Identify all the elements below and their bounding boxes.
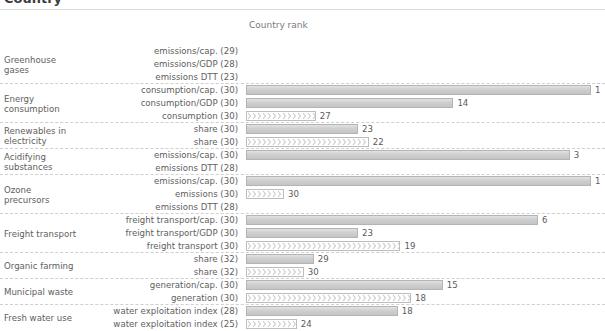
bar-track: 18 bbox=[246, 293, 605, 303]
bar-track: 14 bbox=[246, 98, 605, 108]
rank-value: 22 bbox=[373, 137, 384, 148]
group-label: Freight transport bbox=[4, 229, 76, 239]
bar-track bbox=[246, 46, 605, 56]
group-label-line: gases bbox=[4, 65, 56, 75]
bar-track: 27 bbox=[246, 111, 605, 121]
rank-bar bbox=[246, 241, 400, 251]
group-label-line: Fresh water use bbox=[4, 313, 72, 323]
group-label: Organic farming bbox=[4, 261, 74, 271]
chart-row: generation/cap. (30)15 bbox=[0, 279, 605, 292]
rank-bar bbox=[246, 267, 304, 277]
chart-row: share (32)29 bbox=[0, 253, 605, 266]
chart-row: share (30)23 bbox=[0, 123, 605, 136]
bar-track: 6 bbox=[246, 215, 605, 225]
rank-value: 14 bbox=[457, 98, 468, 109]
rank-bar bbox=[246, 319, 297, 329]
rank-value: 3 bbox=[574, 150, 579, 161]
rank-value: 1 bbox=[595, 176, 600, 187]
bar-track: 23 bbox=[246, 124, 605, 134]
group-separator bbox=[0, 122, 605, 123]
country-rank-chart: Country rank emissions/cap. (29)emission… bbox=[0, 0, 605, 331]
rank-bar bbox=[246, 306, 398, 316]
group-label: Greenhousegases bbox=[4, 55, 56, 75]
rank-bar bbox=[246, 98, 453, 108]
group-separator bbox=[0, 148, 605, 149]
group-label-line: precursors bbox=[4, 195, 50, 205]
group-label-line: Organic farming bbox=[4, 261, 74, 271]
bar-track: 3 bbox=[246, 150, 605, 160]
bar-track bbox=[246, 72, 605, 82]
group-separator bbox=[0, 83, 605, 84]
group-label: Municipal waste bbox=[4, 287, 73, 297]
rank-bar bbox=[246, 228, 358, 238]
chart-row: emissions/cap. (30)1 bbox=[0, 175, 605, 188]
rank-bar bbox=[246, 150, 570, 160]
bar-track: 29 bbox=[246, 254, 605, 264]
group-label: Fresh water use bbox=[4, 313, 72, 323]
bar-track: 23 bbox=[246, 228, 605, 238]
axis-title: Country rank bbox=[249, 20, 308, 30]
rank-bar bbox=[246, 254, 314, 264]
rank-value: 23 bbox=[362, 228, 373, 239]
chart-row: emissions/cap. (29) bbox=[0, 45, 605, 58]
chart-row: freight transport/cap. (30)6 bbox=[0, 214, 605, 227]
bar-track bbox=[246, 163, 605, 173]
rank-value: 18 bbox=[415, 293, 426, 304]
chart-row: freight transport/GDP (30)23 bbox=[0, 227, 605, 240]
bar-track: 24 bbox=[246, 319, 605, 329]
group-label-line: consumption bbox=[4, 104, 60, 114]
group-separator bbox=[0, 174, 605, 175]
rank-bar bbox=[246, 111, 316, 121]
group-label-line: Energy bbox=[4, 94, 60, 104]
chart-row: emissions/GDP (28) bbox=[0, 58, 605, 71]
bar-track: 1 bbox=[246, 85, 605, 95]
group-separator bbox=[0, 252, 605, 253]
rank-value: 24 bbox=[301, 319, 312, 330]
rank-value: 23 bbox=[362, 124, 373, 135]
chart-row: emissions/cap. (30)3 bbox=[0, 149, 605, 162]
rank-bar bbox=[246, 137, 369, 147]
bar-track: 30 bbox=[246, 189, 605, 199]
group-label: Acidifyingsubstances bbox=[4, 152, 52, 172]
bar-track bbox=[246, 59, 605, 69]
rank-bar bbox=[246, 293, 411, 303]
chart-row: water exploitation index (28)18 bbox=[0, 305, 605, 318]
group-separator bbox=[0, 213, 605, 214]
chart-row: water exploitation index (25)24 bbox=[0, 318, 605, 331]
group-separator bbox=[0, 278, 605, 279]
rank-bar bbox=[246, 215, 538, 225]
rank-bar bbox=[246, 176, 591, 186]
group-label-line: Municipal waste bbox=[4, 287, 73, 297]
group-label-line: Renewables in bbox=[4, 126, 66, 136]
indicator-label: freight transport/cap. (30) bbox=[0, 215, 238, 225]
group-separator bbox=[0, 304, 605, 305]
bar-track: 18 bbox=[246, 306, 605, 316]
bar-track: 22 bbox=[246, 137, 605, 147]
rank-bar bbox=[246, 124, 358, 134]
group-label-line: Freight transport bbox=[4, 229, 76, 239]
rank-value: 30 bbox=[288, 189, 299, 200]
rank-value: 6 bbox=[542, 215, 547, 226]
rank-value: 27 bbox=[320, 111, 331, 122]
rank-bar bbox=[246, 85, 591, 95]
group-label-line: substances bbox=[4, 162, 52, 172]
rank-value: 18 bbox=[402, 306, 413, 317]
rank-bar bbox=[246, 189, 284, 199]
rank-bar bbox=[246, 280, 443, 290]
bar-track: 30 bbox=[246, 267, 605, 277]
group-label-line: Greenhouse bbox=[4, 55, 56, 65]
bar-track bbox=[246, 202, 605, 212]
rank-value: 1 bbox=[595, 85, 600, 96]
chart-row: consumption/GDP (30)14 bbox=[0, 97, 605, 110]
group-label-line: Ozone bbox=[4, 185, 50, 195]
group-label-line: Acidifying bbox=[4, 152, 52, 162]
bar-track: 1 bbox=[246, 176, 605, 186]
rank-value: 19 bbox=[404, 241, 415, 252]
group-label-line: electricity bbox=[4, 136, 66, 146]
group-label: Renewables inelectricity bbox=[4, 126, 66, 146]
rank-value: 30 bbox=[308, 267, 319, 278]
chart-row: consumption/cap. (30)1 bbox=[0, 84, 605, 97]
chart-row: emissions (30)30 bbox=[0, 188, 605, 201]
group-label: Ozoneprecursors bbox=[4, 185, 50, 205]
indicator-label: freight transport (30) bbox=[0, 241, 238, 251]
